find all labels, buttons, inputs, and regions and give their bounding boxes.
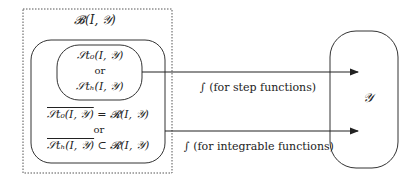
bounded-set-label: 𝓑(I, 𝒴) [74,14,116,26]
target-space-label: 𝒴 [363,91,373,104]
or-label-bottom: or [47,125,151,135]
step-integral-label: ∫ (for step functions) [200,82,316,93]
closure-equality-label: 𝒮t₀(I, 𝒴) = 𝓡(I, 𝒴) [47,109,149,120]
step-h-label: 𝒮tₕ(I, 𝒴) [62,81,138,92]
equals-riemann: = 𝓡(I, 𝒴) [94,108,149,121]
or-label-top: or [62,66,138,76]
closure-step-o: 𝒮t₀(I, 𝒴) [47,108,94,121]
closure-step-h: 𝒮tₕ(I, 𝒴) [47,139,94,152]
integrable-integral-label: ∫ (for integrable functions) [184,141,334,152]
step-o-label: 𝒮t₀(I, 𝒴) [62,50,138,61]
subset-riemann: ⊂ 𝓡(I, 𝒴) [94,139,149,152]
closure-subset-label: 𝒮tₕ(I, 𝒴) ⊂ 𝓡(I, 𝒴) [47,140,149,151]
